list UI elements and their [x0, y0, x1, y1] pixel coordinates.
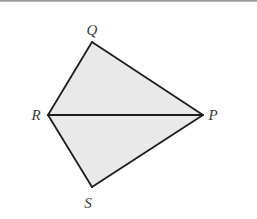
vertex-label-p: P	[207, 107, 217, 123]
vertex-label-r: R	[30, 107, 40, 123]
kite-diagram: Q R P S	[0, 0, 257, 219]
triangle-rsp	[48, 115, 203, 187]
triangle-qrp	[48, 42, 203, 115]
vertex-label-q: Q	[87, 22, 98, 38]
vertex-label-s: S	[84, 195, 92, 211]
